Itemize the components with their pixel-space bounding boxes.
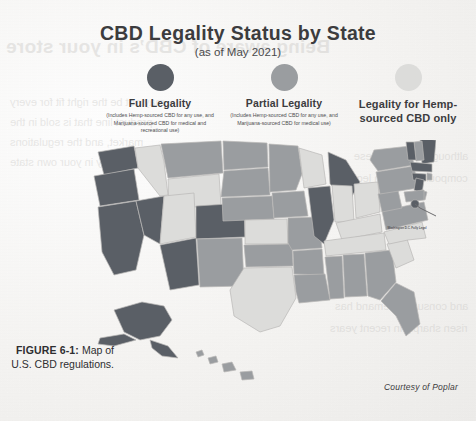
state-or [94, 169, 139, 206]
state-ks [245, 219, 288, 244]
state-ia [272, 191, 308, 218]
figure-subtitle: (as of May 2021) [0, 46, 476, 58]
state-ak [150, 340, 178, 358]
map-legend: Full Legality (Includes Hemp-sourced CBD… [104, 64, 464, 135]
figure-container: CBD Legality Status by State (as of May … [0, 0, 476, 421]
state-nd [223, 141, 268, 170]
state-ne [222, 196, 274, 221]
us-map-svg [84, 140, 436, 390]
legend-label-hemp-only: Legality for Hemp-sourced CBD only [352, 97, 464, 126]
us-choropleth-map [84, 140, 436, 390]
state-oh [354, 182, 380, 218]
legend-swatch-full-legality [147, 64, 174, 91]
figure-title: CBD Legality Status by State [0, 22, 476, 45]
legend-label-partial-legality: Partial Legality [228, 97, 340, 109]
state-wi [299, 148, 326, 188]
state-vt [406, 142, 416, 160]
state-ar [293, 249, 324, 275]
state-la [294, 274, 330, 303]
state-ut [160, 193, 196, 244]
legend-swatch-partial-legality [271, 64, 298, 91]
state-in [332, 185, 354, 222]
state-hi [196, 350, 204, 357]
legend-item-full-legality: Full Legality (Includes Hemp-sourced CBD… [104, 64, 216, 135]
state-az [160, 238, 199, 290]
state-hi [208, 356, 218, 364]
state-sd [221, 168, 270, 197]
legend-swatch-hemp-only [395, 64, 422, 91]
legend-item-hemp-only: Legality for Hemp-sourced CBD only [352, 64, 464, 126]
state-ok [244, 244, 293, 267]
state-ri [427, 173, 432, 180]
figure-caption: FIGURE 6-1: Map of U.S. CBD regulations. [4, 344, 114, 372]
state-ma [410, 162, 432, 172]
state-mt [161, 141, 223, 178]
figure-caption-label: FIGURE 6-1: [16, 344, 79, 356]
state-ca [98, 201, 144, 275]
legend-item-partial-legality: Partial Legality (Includes Hemp-sourced … [228, 64, 340, 127]
legend-label-full-legality: Full Legality [104, 97, 216, 109]
figure-credit: Courtesy of Poplar [384, 382, 458, 392]
state-al [343, 254, 367, 297]
legend-description-full-legality: (Includes Hemp-sourced CBD for any use, … [104, 112, 216, 134]
state-tx [230, 267, 296, 332]
state-hi [240, 371, 254, 380]
state-shapes [94, 140, 436, 380]
state-mn [269, 144, 302, 192]
state-hi [222, 362, 236, 372]
legend-description-partial-legality: (Includes Hemp-sourced CBD for any use, … [228, 112, 340, 127]
dc-annotation-label: Washington D.C. Fully Legal [387, 227, 427, 231]
